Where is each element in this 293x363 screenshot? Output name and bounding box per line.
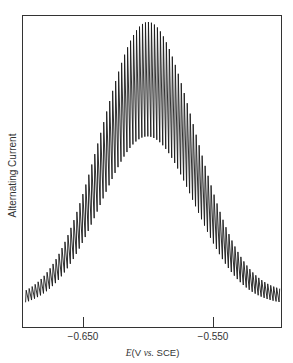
ac-current-trace [26,22,280,302]
x-axis-reference: SCE) [154,347,179,358]
x-tick-label-0650: −0.650 [68,331,99,342]
x-axis-label: E(V vs. SCE) [0,347,293,358]
x-axis-unit: (V [132,347,144,358]
x-axis-vs: vs. [144,348,154,358]
y-axis-label: Alternating Current [7,126,18,226]
chart-plot [0,0,293,363]
x-tick-label-0550: −0.550 [198,331,229,342]
